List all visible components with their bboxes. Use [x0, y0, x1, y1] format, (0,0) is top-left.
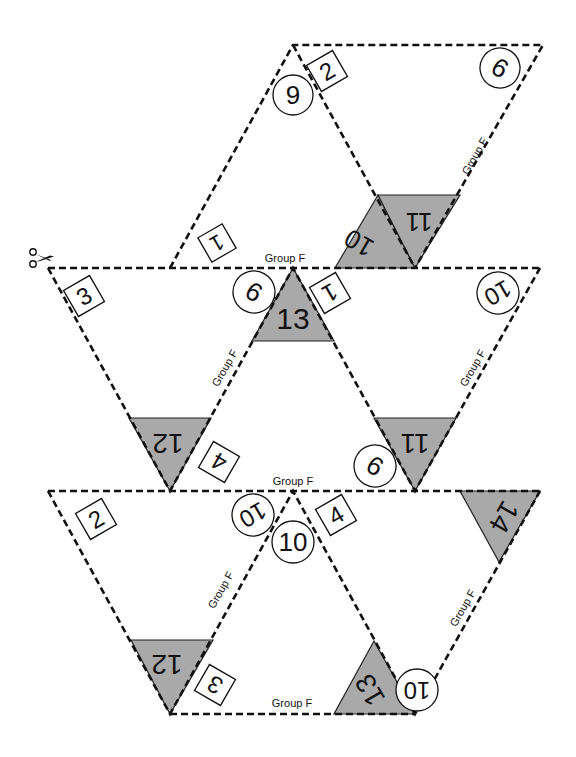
middle-row: 3 4 1 9 10 9 13 12 11 Group	[48, 263, 540, 494]
circle-label-9-top-left: 9	[273, 75, 313, 115]
box-label-4: 4	[199, 442, 240, 483]
circle-label-10-mid: 10	[469, 264, 526, 321]
bottom-row: 2 3 4 10 10 10 12 14 13 Grou	[48, 486, 540, 714]
box-label-3-bottom: 3	[195, 665, 236, 706]
shaded-label-11: 11	[406, 207, 433, 237]
box-label-2: 2	[307, 51, 348, 92]
group-label: Group F	[209, 347, 240, 388]
group-label: Group F	[265, 252, 306, 264]
shaded-label-11-mid: 11	[400, 428, 429, 459]
circle-label-10-bottom-center: 10	[272, 521, 314, 563]
box-label-4-bottom: 4	[316, 495, 357, 536]
shaded-label-13: 13	[276, 302, 309, 335]
group-label: Group F	[459, 135, 490, 176]
shaded-label-12-bottom: 12	[151, 649, 182, 680]
svg-text:13: 13	[276, 302, 309, 335]
shaded-label-12: 12	[152, 428, 183, 459]
box-label-3: 3	[64, 276, 105, 317]
box-label-2-bottom: 2	[76, 499, 117, 540]
svg-text:10: 10	[404, 677, 431, 704]
box-label-1: 1	[198, 224, 236, 262]
svg-text:11: 11	[406, 207, 433, 237]
group-label: Group F	[273, 475, 314, 487]
svg-text:10: 10	[279, 527, 308, 557]
svg-text:12: 12	[152, 428, 183, 459]
svg-text:9: 9	[286, 80, 300, 110]
group-label: Group F	[272, 697, 313, 709]
scissors-icon	[30, 249, 54, 267]
svg-text:11: 11	[400, 428, 429, 459]
top-piece: 1 2 9 9 10 11 Group F Group F	[170, 41, 543, 268]
svg-text:12: 12	[151, 649, 182, 680]
circle-label-10-bottom-right: 10	[396, 669, 438, 711]
flexagon-template: 1 2 9 9 10 11 Group F Group F 3	[0, 0, 576, 757]
